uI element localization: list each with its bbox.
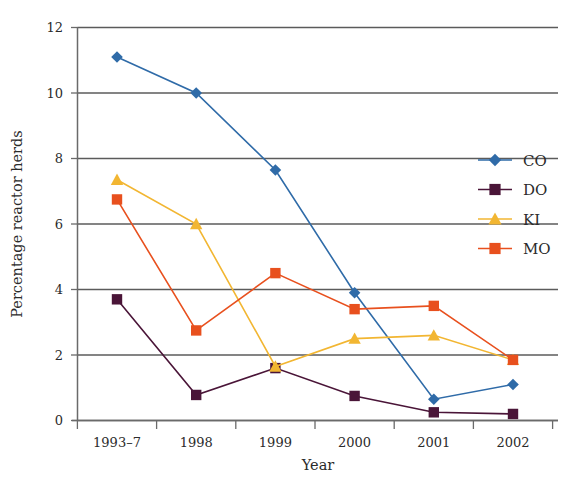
data-point-marker (111, 174, 123, 185)
legend-swatch-marker (489, 154, 501, 166)
series-do (112, 294, 518, 419)
data-point-marker (429, 407, 439, 417)
legend-item-co[interactable]: CO (478, 152, 547, 170)
legend-label: KI (523, 211, 540, 229)
x-tick-mark-group (77, 421, 552, 430)
legend: CODOKIMO (478, 152, 551, 259)
y-tick-label: 12 (46, 20, 63, 35)
data-point-marker (508, 409, 518, 419)
legend-swatch-marker (489, 184, 500, 195)
data-point-marker (191, 325, 201, 335)
data-point-marker (112, 294, 122, 304)
line-chart: 024681012 1993–719981999200020012002 Yea… (0, 0, 588, 488)
legend-item-mo[interactable]: MO (478, 240, 551, 258)
data-point-marker (428, 393, 440, 405)
series-group (111, 51, 519, 419)
series-line (117, 299, 513, 414)
x-tick-label: 1998 (180, 435, 213, 450)
y-tick-label: 6 (55, 217, 63, 232)
x-tick-label: 2002 (496, 435, 529, 450)
data-point-marker (112, 194, 122, 204)
x-axis-title: Year (301, 457, 335, 473)
data-point-marker (191, 390, 201, 400)
series-ki (111, 174, 519, 372)
y-tick-label: 8 (55, 151, 63, 166)
data-point-marker (111, 51, 123, 63)
y-tick-label: 10 (46, 86, 63, 101)
series-mo (112, 194, 518, 365)
y-tick-label: 2 (55, 348, 63, 363)
y-tick-label-group: 024681012 (46, 20, 63, 428)
legend-label: DO (523, 181, 547, 199)
x-tick-label: 1999 (259, 435, 292, 450)
legend-swatch-marker (489, 243, 500, 254)
y-tick-mark-group (71, 28, 78, 421)
legend-item-do[interactable]: DO (478, 181, 547, 199)
legend-label: MO (523, 240, 551, 258)
data-point-marker (270, 268, 280, 278)
series-line (117, 180, 513, 367)
series-line (117, 57, 513, 399)
y-axis-title: Percentage reactor herds (9, 130, 25, 318)
legend-label: CO (523, 152, 547, 170)
x-tick-label: 2001 (417, 435, 450, 450)
y-tick-label: 0 (55, 413, 63, 428)
data-point-marker (508, 355, 518, 365)
gridline-group (78, 28, 559, 421)
data-point-marker (349, 391, 359, 401)
x-tick-label: 1993–7 (93, 435, 141, 450)
chart-canvas: 024681012 1993–719981999200020012002 Yea… (0, 0, 588, 488)
data-point-marker (507, 379, 519, 391)
data-point-marker (349, 304, 359, 314)
x-tick-label-group: 1993–719981999200020012002 (93, 435, 529, 450)
y-tick-label: 4 (55, 282, 63, 297)
data-point-marker (349, 287, 361, 299)
data-point-marker (429, 301, 439, 311)
legend-item-ki[interactable]: KI (478, 211, 540, 229)
x-tick-label: 2000 (338, 435, 371, 450)
